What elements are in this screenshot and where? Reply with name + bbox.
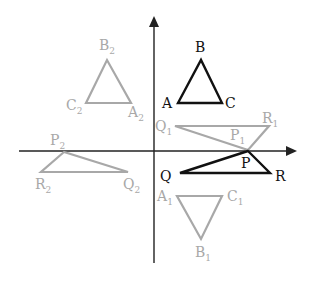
vertex-label: P2 <box>50 132 65 151</box>
vertex-label: C <box>225 95 236 111</box>
vertex-label: B <box>195 39 205 55</box>
vertex-label: Q <box>160 168 171 184</box>
triangles: ABCB2C2A2Q1R1P1PQRP2R2Q2A1C1B1 <box>35 37 286 263</box>
vertex-label: P1 <box>230 127 245 146</box>
vertex-label: Q1 <box>155 118 172 137</box>
triangle-a1b1c1: A1C1B1 <box>156 188 243 263</box>
triangle-outline <box>41 152 128 172</box>
x-axis-arrow-icon <box>286 146 297 156</box>
triangle-abc: ABC <box>161 39 236 111</box>
coordinate-diagram: ABCB2C2A2Q1R1P1PQRP2R2Q2A1C1B1 <box>0 0 309 282</box>
axes <box>19 16 297 263</box>
vertex-label: A1 <box>156 188 173 207</box>
triangle-outline <box>178 60 222 103</box>
triangle-outline <box>180 151 270 173</box>
vertex-label: C1 <box>227 188 243 207</box>
vertex-label: Q2 <box>123 176 140 195</box>
vertex-label: B2 <box>99 37 115 56</box>
triangle-outline <box>175 126 269 150</box>
triangle-outline <box>177 196 222 239</box>
triangle-a2b2c2: B2C2A2 <box>66 37 144 123</box>
vertex-label: A <box>161 95 173 111</box>
triangle-pqr: PQR <box>160 151 286 184</box>
vertex-label: R <box>275 168 286 184</box>
triangle-outline <box>86 60 131 103</box>
vertex-label: A2 <box>127 104 144 123</box>
y-axis-arrow-icon <box>149 16 159 27</box>
triangle-p1q1r1: Q1R1P1 <box>155 110 278 150</box>
vertex-label: R2 <box>35 176 51 195</box>
vertex-label: P <box>241 155 250 171</box>
vertex-label: C2 <box>66 97 82 116</box>
triangle-p2q2r2: P2R2Q2 <box>35 132 140 195</box>
vertex-label: B1 <box>195 244 211 263</box>
